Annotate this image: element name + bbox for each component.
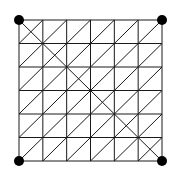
cell-diagonal-line bbox=[114, 138, 138, 162]
cell-diagonal-line bbox=[43, 20, 67, 44]
cell-diagonal-line bbox=[19, 114, 43, 138]
cell-diagonal-line bbox=[91, 114, 115, 138]
cell-diagonal-line bbox=[19, 44, 43, 68]
cell-diagonal-line bbox=[43, 91, 67, 115]
corner-dot-top-left bbox=[14, 15, 24, 25]
cell-diagonal-line bbox=[138, 114, 162, 138]
cell-diagonal-line bbox=[19, 67, 43, 91]
cell-diagonal-line bbox=[114, 91, 138, 115]
cell-diagonal-line bbox=[43, 114, 67, 138]
cell-diagonal-line bbox=[138, 91, 162, 115]
cell-diagonal-line bbox=[67, 91, 91, 115]
triangulated-grid-diagram bbox=[0, 0, 177, 182]
cell-diagonal-line bbox=[67, 114, 91, 138]
cell-diagonal-line bbox=[114, 67, 138, 91]
cell-diagonal-line bbox=[67, 138, 91, 162]
cell-diagonal-line bbox=[67, 20, 91, 44]
cell-diagonal-line bbox=[91, 67, 115, 91]
corner-dot-bottom-right bbox=[157, 156, 167, 166]
cell-diagonal-line bbox=[19, 91, 43, 115]
cell-diagonal-line bbox=[91, 20, 115, 44]
cell-diagonal-line bbox=[114, 20, 138, 44]
cell-diagonal-line bbox=[67, 44, 91, 68]
cell-diagonal-line bbox=[91, 138, 115, 162]
cell-diagonal-line bbox=[138, 20, 162, 44]
cell-diagonal-line bbox=[43, 138, 67, 162]
corner-dot-top-right bbox=[157, 15, 167, 25]
cell-diagonal-line bbox=[138, 44, 162, 68]
cell-diagonal-line bbox=[138, 67, 162, 91]
corner-dot-bottom-left bbox=[14, 156, 24, 166]
cell-diagonal-line bbox=[43, 67, 67, 91]
cell-diagonal-line bbox=[91, 44, 115, 68]
cell-diagonal-line bbox=[19, 138, 43, 162]
cell-diagonal-line bbox=[114, 44, 138, 68]
